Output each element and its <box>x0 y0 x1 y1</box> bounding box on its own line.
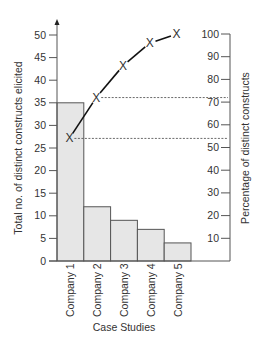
y-tick-label: 40 <box>34 74 46 86</box>
bar-company-3 <box>111 220 138 261</box>
x-axis-label: Case Studies <box>93 321 155 333</box>
x-tick-label: Company 1 <box>64 263 76 317</box>
y-tick-label: 30 <box>34 119 46 131</box>
y-axis-arrow-icon <box>55 19 60 25</box>
y2-axis-label: Percentage of distinct constructs <box>239 72 251 224</box>
y2-tick-label: 100 <box>201 28 219 40</box>
x-tick-label: Company 3 <box>118 263 130 317</box>
bar-company-4 <box>137 229 164 261</box>
y2-tick-label: 10 <box>207 232 219 244</box>
bar-company-1 <box>57 103 84 261</box>
y2-tick-label: 50 <box>207 141 219 153</box>
y2-tick-label: 70 <box>207 96 219 108</box>
x-tick-label: Company 5 <box>172 263 184 317</box>
y-tick-label: 0 <box>40 255 46 267</box>
y2-tick-label: 80 <box>207 73 219 85</box>
y-tick-label: 20 <box>34 164 46 176</box>
pareto-chart: Company 1Company 2Company 3Company 4Comp… <box>0 0 262 346</box>
x-tick-label: Company 4 <box>145 263 157 317</box>
y2-tick-label: 60 <box>207 118 219 130</box>
y-tick-label: 5 <box>40 232 46 244</box>
y-tick-label: 25 <box>34 142 46 154</box>
y-tick-label: 15 <box>34 187 46 199</box>
x-marker-icon: X <box>119 59 127 73</box>
y2-tick-label: 90 <box>207 50 219 62</box>
bar-company-5 <box>164 243 191 261</box>
y2-tick-label: 30 <box>207 186 219 198</box>
bar-company-2 <box>84 207 111 261</box>
y-tick-label: 10 <box>34 209 46 221</box>
x-marker-icon: X <box>173 27 181 41</box>
y-tick-label: 50 <box>34 29 46 41</box>
x-marker-icon: X <box>65 131 73 145</box>
y-axis-label: Total no. of distinct constructs elicite… <box>12 61 24 234</box>
y2-tick-label: 40 <box>207 164 219 176</box>
y-tick-label: 35 <box>34 96 46 108</box>
x-marker-icon: X <box>92 91 100 105</box>
y-tick-label: 45 <box>34 51 46 63</box>
x-tick-label: Company 2 <box>91 263 103 317</box>
x-marker-icon: X <box>146 36 154 50</box>
y2-tick-label: 20 <box>207 209 219 221</box>
